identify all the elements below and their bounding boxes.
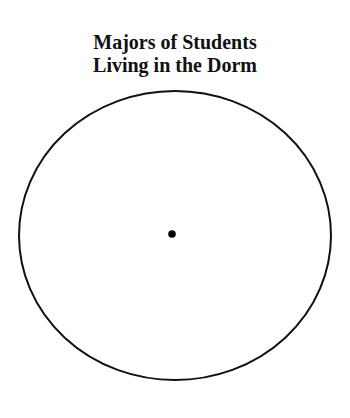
pie-center-dot <box>168 230 176 238</box>
pie-chart <box>0 0 350 418</box>
